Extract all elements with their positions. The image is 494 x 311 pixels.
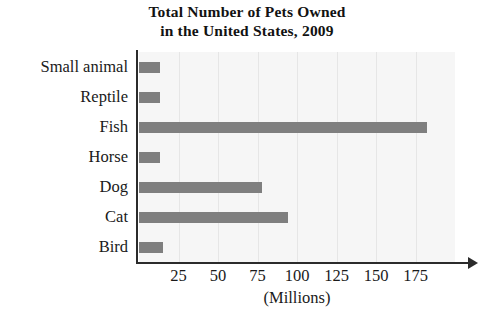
x-axis-caption: (Millions): [139, 287, 455, 308]
bar: [139, 122, 427, 133]
category-label: Dog: [100, 176, 128, 198]
y-axis-line: [136, 50, 138, 264]
x-tick-label: 150: [364, 265, 389, 287]
x-tick-label: 50: [210, 265, 227, 287]
x-axis-tick-labels: 255075100125150175: [0, 265, 494, 287]
x-tick-label: 100: [285, 265, 310, 287]
bar-series: [139, 52, 475, 262]
category-label: Reptile: [80, 86, 128, 108]
y-axis-category-labels: Small animalReptileFishHorseDogCatBird: [0, 52, 132, 262]
x-tick-label: 25: [170, 265, 187, 287]
bar: [139, 242, 163, 253]
bar: [139, 92, 160, 103]
category-label: Small animal: [40, 56, 128, 78]
chart-title-line-2: in the United States, 2009: [0, 22, 494, 41]
category-label: Bird: [99, 236, 128, 258]
bar: [139, 62, 160, 73]
category-label: Fish: [100, 116, 128, 138]
x-tick-label: 75: [249, 265, 266, 287]
chart-title-line-1: Total Number of Pets Owned: [0, 3, 494, 22]
bar-chart: Total Number of Pets Owned in the United…: [0, 0, 494, 311]
chart-title: Total Number of Pets Owned in the United…: [0, 3, 494, 40]
x-tick-label: 125: [324, 265, 349, 287]
category-label: Cat: [105, 206, 128, 228]
x-axis-line: [136, 262, 472, 264]
bar: [139, 212, 288, 223]
x-tick-label: 175: [403, 265, 428, 287]
bar: [139, 182, 262, 193]
bar: [139, 152, 160, 163]
category-label: Horse: [89, 146, 128, 168]
